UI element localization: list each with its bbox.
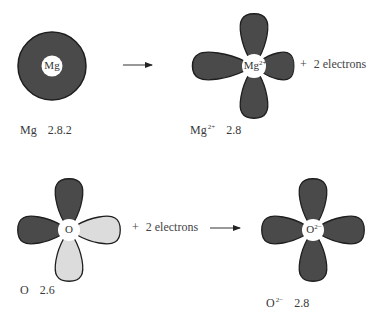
electrons-text: 2 electrons xyxy=(314,57,366,71)
mg-config-label: Mg2.8.2 xyxy=(20,123,72,138)
o-lobe-top-filled xyxy=(55,179,83,222)
plus-sign: + xyxy=(300,57,307,71)
mg-ion-nucleus-symbol: Mg xyxy=(244,59,259,71)
o-config-label: O2.6 xyxy=(20,283,55,298)
mg-ion-nucleus-charge: 2+ xyxy=(259,59,266,67)
o-nucleus-symbol: O xyxy=(65,223,73,235)
electron-configuration: 2.6 xyxy=(40,283,55,297)
species-charge: 2+ xyxy=(208,123,215,131)
o-nucleus-label: O xyxy=(61,223,77,235)
species-charge: 2− xyxy=(276,296,283,304)
o-ion-nucleus-label: O2− xyxy=(302,223,326,235)
species-symbol: Mg xyxy=(20,123,37,137)
mg-nucleus-label: Mg xyxy=(41,59,63,71)
species-symbol: O xyxy=(20,283,29,297)
electron-configuration: 2.8 xyxy=(226,123,241,137)
mg-byproduct-electrons: +2 electrons xyxy=(300,57,366,72)
electron-configuration: 2.8 xyxy=(294,296,309,310)
plus-sign: + xyxy=(132,220,139,234)
diagram-canvas xyxy=(0,0,386,320)
o-lobe-bottom-empty xyxy=(55,238,83,281)
o-ion-nucleus-charge: 2− xyxy=(314,223,321,231)
species-symbol: Mg xyxy=(190,123,207,137)
o-lobe-left-filled xyxy=(18,216,61,244)
o-ion-config-label: O2−2.8 xyxy=(266,296,309,311)
electrons-text: 2 electrons xyxy=(146,220,198,234)
species-symbol: O xyxy=(266,296,275,310)
mg-nucleus-symbol: Mg xyxy=(44,59,59,71)
mg-ion-config-label: Mg2+2.8 xyxy=(190,123,241,138)
o-addend-electrons: +2 electrons xyxy=(132,220,198,235)
o-lobe-right-empty xyxy=(77,216,120,244)
electron-configuration: 2.8.2 xyxy=(48,123,72,137)
mg-ion-nucleus-label: Mg2+ xyxy=(238,59,272,71)
